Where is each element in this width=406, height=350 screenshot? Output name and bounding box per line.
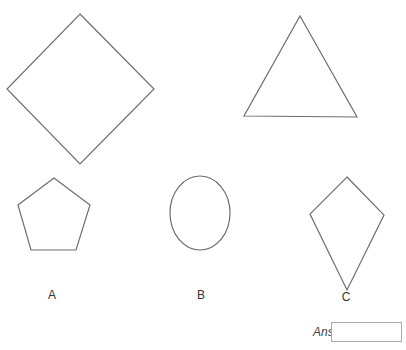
label-a: A (48, 288, 56, 302)
pentagon-shape (18, 178, 90, 250)
square-shape (7, 14, 154, 164)
label-b: B (197, 288, 205, 302)
answer-input[interactable] (331, 322, 402, 342)
label-c: C (342, 290, 351, 304)
kite-shape (310, 177, 384, 290)
circle-shape (170, 176, 230, 250)
triangle-shape (244, 16, 357, 117)
